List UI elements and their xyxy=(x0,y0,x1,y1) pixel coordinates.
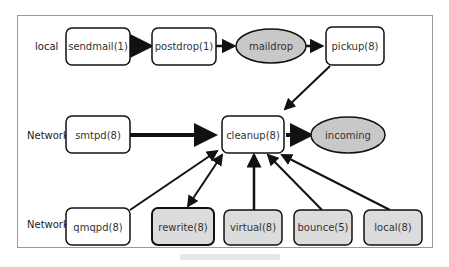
node-rewrite: rewrite(8) xyxy=(152,208,214,245)
row-label-network-2: Network xyxy=(27,219,69,230)
node-sendmail: sendmail(1) xyxy=(66,28,130,65)
node-label: postdrop(1) xyxy=(155,41,214,52)
node-postdrop: postdrop(1) xyxy=(152,28,216,65)
node-bounce: bounce(5) xyxy=(294,210,352,245)
node-label: sendmail(1) xyxy=(68,41,128,52)
node-maildrop: maildrop xyxy=(236,29,306,63)
node-local: local(8) xyxy=(364,210,422,245)
node-label: rewrite(8) xyxy=(158,222,207,233)
edge-rewrite-cleanup xyxy=(188,155,222,206)
mail-flow-diagram: local Network Network sendmail(1) postdr… xyxy=(0,0,449,267)
node-qmqpd: qmqpd(8) xyxy=(66,208,130,245)
figure-caption xyxy=(180,254,280,260)
node-cleanup: cleanup(8) xyxy=(222,116,284,153)
node-label: maildrop xyxy=(249,41,293,52)
row-label-local: local xyxy=(35,41,58,52)
node-label: virtual(8) xyxy=(230,222,276,233)
node-label: local(8) xyxy=(374,222,412,233)
edge-local-cleanup xyxy=(282,155,390,210)
node-label: cleanup(8) xyxy=(226,130,280,141)
node-label: bounce(5) xyxy=(298,222,349,233)
node-label: incoming xyxy=(325,130,371,141)
node-smtpd: smtpd(8) xyxy=(66,116,130,153)
node-label: pickup(8) xyxy=(332,41,379,52)
node-label: smtpd(8) xyxy=(75,130,121,141)
node-virtual: virtual(8) xyxy=(224,210,282,245)
node-label: qmqpd(8) xyxy=(73,222,122,233)
edge-bounce-cleanup xyxy=(268,155,322,210)
node-incoming: incoming xyxy=(311,117,385,153)
node-pickup: pickup(8) xyxy=(326,27,384,65)
edge-pickup-cleanup xyxy=(285,66,330,109)
row-label-network-1: Network xyxy=(27,130,69,141)
